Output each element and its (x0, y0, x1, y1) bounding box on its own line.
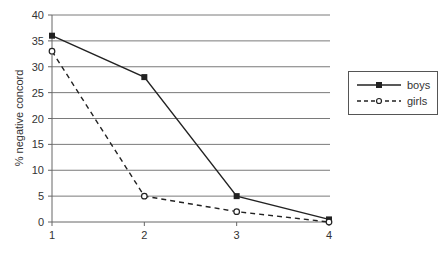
legend-item-girls: girls (349, 93, 437, 109)
y-tick-label: 10 (32, 164, 44, 176)
y-tick-label: 0 (38, 216, 44, 228)
data-point-girls (49, 48, 55, 54)
y-tick-label: 5 (38, 190, 44, 202)
gridlines (52, 15, 330, 196)
y-tick-label: 30 (32, 61, 44, 73)
data-point-girls (326, 219, 332, 225)
dashed-line-circle-marker-icon (357, 93, 401, 109)
data-point-girls (142, 193, 148, 199)
legend-label-boys: boys (407, 77, 430, 93)
x-axis-ticks: 1234 (49, 222, 332, 241)
x-tick-label: 1 (49, 229, 55, 241)
y-axis-label: % negative concord (13, 70, 25, 167)
data-point-boys (234, 193, 240, 199)
legend-label-girls: girls (407, 93, 427, 109)
legend-item-boys: boys (349, 77, 437, 93)
x-tick-label: 3 (234, 229, 240, 241)
x-tick-label: 4 (326, 229, 332, 241)
legend: boys girls (348, 71, 438, 115)
data-point-boys (141, 74, 147, 80)
x-tick-label: 2 (141, 229, 147, 241)
data-point-girls (234, 209, 240, 215)
y-tick-label: 35 (32, 35, 44, 47)
series-line-boys (52, 36, 329, 220)
data-point-boys (49, 33, 55, 39)
line-chart: 0510152025303540 1234 % negative concord (0, 0, 447, 256)
y-axis-ticks: 0510152025303540 (32, 9, 52, 228)
y-tick-label: 20 (32, 113, 44, 125)
y-tick-label: 15 (32, 138, 44, 150)
y-tick-label: 25 (32, 87, 44, 99)
y-tick-label: 40 (32, 9, 44, 21)
solid-line-square-marker-icon (357, 77, 401, 93)
